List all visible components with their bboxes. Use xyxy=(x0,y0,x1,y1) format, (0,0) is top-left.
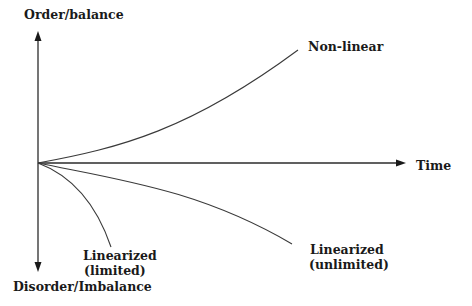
label-linearized-unlimited-line1: Linearized xyxy=(310,243,384,257)
y-axis-up-arrow-icon xyxy=(35,31,42,41)
y-axis-down-arrow-icon xyxy=(35,262,42,272)
label-non-linear: Non-linear xyxy=(308,40,383,54)
label-linearized-limited-line1: Linearized xyxy=(83,249,157,263)
y-axis-bottom-label: Disorder/Imbalance xyxy=(13,280,152,294)
curve-linearized-unlimited xyxy=(38,163,292,244)
curve-non-linear xyxy=(38,50,298,163)
label-linearized-unlimited-line2: (unlimited) xyxy=(309,258,389,272)
y-axis-top-label: Order/balance xyxy=(24,8,124,22)
diagram-canvas xyxy=(0,0,472,306)
x-axis-right-arrow-icon xyxy=(396,160,406,167)
x-axis-label: Time xyxy=(416,159,451,173)
label-linearized-limited-line2: (limited) xyxy=(84,264,146,278)
